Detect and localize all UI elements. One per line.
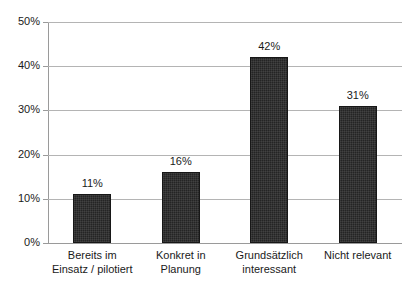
bar-slot: 31%: [314, 22, 403, 243]
bar-slot: 16%: [137, 22, 226, 243]
bar-slot: 11%: [48, 22, 137, 243]
bar-value-label: 16%: [170, 156, 192, 167]
x-axis-category-label: Konkret in Planung: [137, 248, 226, 276]
gridline-0: [48, 243, 402, 244]
y-axis-label-30: 30%: [0, 104, 40, 115]
bar-value-label: 11%: [82, 178, 103, 189]
y-axis-tick-0: [43, 243, 48, 244]
bar-chart: 0%10%20%30%40%50% 11%16%42%31% Bereits i…: [0, 0, 415, 293]
x-axis-category-label: Grundsätzlich interessant: [225, 248, 314, 276]
x-axis-category-label: Nicht relevant: [314, 248, 403, 262]
bar[interactable]: [339, 106, 377, 243]
bar[interactable]: [162, 172, 200, 243]
x-axis-category-labels: Bereits im Einsatz / pilotiertKonkret in…: [48, 248, 402, 288]
bar-value-label: 42%: [258, 41, 280, 52]
bar-slot: 42%: [225, 22, 314, 243]
y-axis-label-40: 40%: [0, 60, 40, 71]
bars-group: 11%16%42%31%: [48, 22, 402, 243]
bar[interactable]: [73, 194, 111, 243]
y-axis-label-50: 50%: [0, 16, 40, 27]
bar[interactable]: [250, 57, 288, 243]
y-axis-label-10: 10%: [0, 193, 40, 204]
bar-value-label: 31%: [347, 90, 369, 101]
y-axis-label-0: 0%: [0, 237, 40, 248]
y-axis-label-20: 20%: [0, 149, 40, 160]
x-axis-category-label: Bereits im Einsatz / pilotiert: [48, 248, 137, 276]
